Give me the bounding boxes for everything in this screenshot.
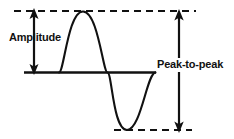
waveform-diagram: Amplitude Peak-to-peak	[0, 0, 234, 139]
sine-wave-curve	[59, 12, 156, 131]
peak-to-peak-arrow	[174, 9, 183, 133]
amplitude-label: Amplitude	[9, 31, 61, 43]
peak-to-peak-label: Peak-to-peak	[157, 58, 223, 70]
